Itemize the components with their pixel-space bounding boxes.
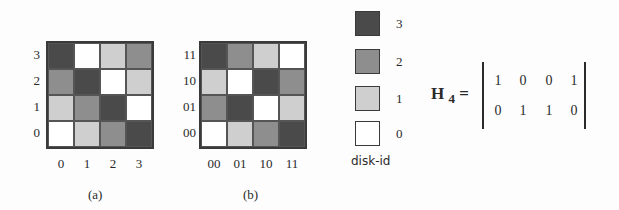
row-label: 3: [16, 42, 40, 68]
matrix-cell: 1: [538, 103, 560, 119]
grid-cell-disk-2: [74, 95, 100, 121]
grid-cell-disk-3: [279, 121, 305, 147]
matrix-symbol: H: [431, 84, 444, 103]
grid-cell-disk-1: [227, 121, 253, 147]
grid-cell-disk-0: [279, 43, 305, 69]
grid-cell-disk-2: [253, 121, 279, 147]
legend-label: 1: [396, 91, 403, 107]
legend-title: disk-id: [351, 154, 390, 168]
grid-cell-disk-1: [74, 121, 100, 147]
grid-cell-disk-2: [126, 43, 152, 69]
legend-swatch-0: [355, 121, 380, 146]
matrix-cell: 0: [563, 103, 585, 119]
grid-cell-disk-0: [253, 95, 279, 121]
row-label: 10: [172, 68, 196, 94]
grid-cell-disk-2: [100, 121, 126, 147]
grid-cell-disk-1: [126, 69, 152, 95]
matrix-left-bar: [482, 62, 484, 129]
legend-label: 0: [396, 126, 403, 142]
grid-cell-disk-1: [201, 69, 227, 95]
grid-cell-disk-2: [48, 69, 74, 95]
grid-cell-disk-3: [74, 69, 100, 95]
caption-b: (b): [243, 187, 258, 203]
grid-b: [199, 41, 307, 149]
matrix-cell: 0: [487, 103, 509, 119]
matrix-cell: 0: [538, 73, 560, 89]
row-label: 01: [172, 94, 196, 120]
grid-cell-disk-1: [279, 95, 305, 121]
grid-cell-disk-1: [253, 43, 279, 69]
matrix-subscript: 4: [448, 91, 455, 106]
matrix-cell: 1: [563, 73, 585, 89]
legend-label: 2: [396, 54, 403, 70]
legend-label: 3: [396, 16, 403, 32]
col-label: 10: [253, 156, 279, 172]
matrix-cell: 1: [512, 103, 534, 119]
caption-a: (a): [88, 187, 102, 203]
row-label: 11: [172, 42, 196, 68]
matrix-cell: 0: [512, 73, 534, 89]
grid-cell-disk-3: [48, 43, 74, 69]
grid-cell-disk-0: [201, 121, 227, 147]
col-label: 0: [48, 156, 74, 172]
legend-swatch-2: [355, 49, 380, 74]
grid-cell-disk-2: [279, 69, 305, 95]
grid-cell-disk-0: [227, 69, 253, 95]
matrix-cell: 1: [487, 73, 509, 89]
grid-cell-disk-2: [201, 95, 227, 121]
grid-cell-disk-1: [100, 43, 126, 69]
col-label: 00: [201, 156, 227, 172]
grid-cell-disk-0: [74, 43, 100, 69]
equals-sign: =: [459, 84, 469, 103]
grid-cell-disk-3: [201, 43, 227, 69]
row-label: 0: [16, 120, 40, 146]
grid-cell-disk-3: [253, 69, 279, 95]
row-label: 1: [16, 94, 40, 120]
grid-cell-disk-3: [126, 121, 152, 147]
col-label: 1: [74, 156, 100, 172]
grid-cell-disk-1: [48, 95, 74, 121]
matrix-name: H 4 =: [431, 84, 469, 107]
grid-cell-disk-3: [227, 95, 253, 121]
grid-cell-disk-0: [100, 69, 126, 95]
col-label: 11: [279, 156, 305, 172]
col-label: 2: [100, 156, 126, 172]
col-label: 3: [126, 156, 152, 172]
grid-cell-disk-2: [227, 43, 253, 69]
grid-cell-disk-0: [126, 95, 152, 121]
grid-cell-disk-3: [100, 95, 126, 121]
grid-cell-disk-0: [48, 121, 74, 147]
legend-swatch-1: [355, 86, 380, 111]
legend-swatch-3: [355, 11, 380, 36]
grid-a: [46, 41, 154, 149]
col-label: 01: [227, 156, 253, 172]
row-label: 00: [172, 120, 196, 146]
row-label: 2: [16, 68, 40, 94]
